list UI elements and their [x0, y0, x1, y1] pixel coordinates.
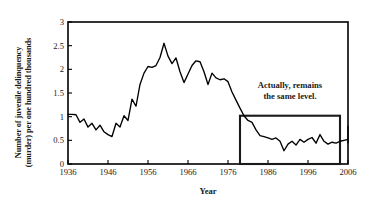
axis-tick-marks [68, 22, 348, 164]
chart-figure: Number of juvenile delinquency (murder) … [0, 0, 373, 205]
plot-area [0, 0, 373, 205]
highlight-box [240, 116, 340, 164]
data-line-juvenile-murder-rate [68, 43, 348, 150]
axes-frame [68, 22, 348, 164]
